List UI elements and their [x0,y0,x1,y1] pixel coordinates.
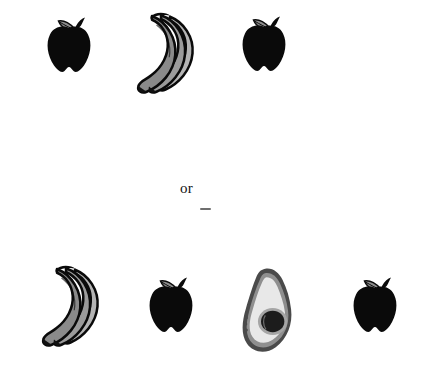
fruit-avocado[interactable] [238,265,300,357]
fruit-bananas[interactable] [126,10,202,100]
apple-stem-shape [178,278,187,289]
avocado-pit-shape [261,311,284,332]
option-row-top[interactable] [0,0,428,160]
fruit-choice-canvas: or [0,0,428,378]
apple-stem-shape [76,18,85,29]
apple-body-shape [354,287,397,332]
apple-body-shape [48,27,91,72]
fruit-apple[interactable] [350,274,400,338]
fruit-apple[interactable] [146,274,196,338]
avocado-skin-nub [245,328,248,331]
fruit-apple[interactable] [239,13,289,77]
avocado-skin-nub [244,322,247,325]
fruit-bananas[interactable] [31,263,107,353]
or-label: or [180,180,193,196]
apple-body-shape [150,287,193,332]
fruit-apple[interactable] [44,14,94,78]
avocado-skin-nub [245,316,248,319]
separator-dash-mark [200,208,211,210]
option-row-bottom[interactable] [0,250,428,378]
apple-body-shape [243,26,286,71]
apple-stem-shape [271,17,280,28]
apple-stem-shape [382,278,391,289]
